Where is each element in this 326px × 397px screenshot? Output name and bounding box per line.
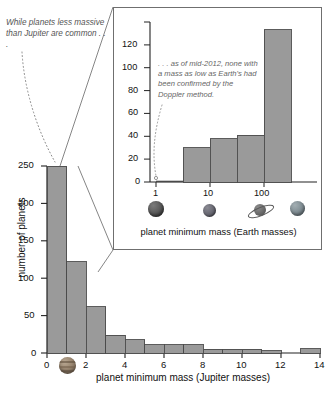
neptune-icon <box>203 204 216 217</box>
inset-ytick-60: 60 <box>128 107 138 117</box>
inset-chart <box>114 8 323 251</box>
earth-icon <box>148 201 164 217</box>
inset-ytick-40: 40 <box>128 130 138 140</box>
main-xtick-0: 0 <box>44 359 49 370</box>
inset-xtick-100: 100 <box>254 188 269 198</box>
main-x-axis-label: planet minimum mass (Jupiter masses) <box>40 372 326 383</box>
saturn-icon <box>247 201 273 219</box>
main-ytick-250: 250 <box>18 159 34 170</box>
inset-ytick-80: 80 <box>128 85 138 95</box>
inset-xtick-1: 1 <box>153 188 158 198</box>
inset-ytick-120: 120 <box>122 39 137 49</box>
figure-root: While planets less massive than Jupiter … <box>0 0 326 397</box>
uranus-icon <box>290 201 305 216</box>
main-xtick-10: 10 <box>236 359 247 370</box>
inset-ytick-100: 100 <box>122 62 137 72</box>
inset-ytick-20: 20 <box>128 153 138 163</box>
main-xtick-6: 6 <box>161 359 166 370</box>
main-y-axis-label: number of planets <box>16 173 27 303</box>
main-xtick-4: 4 <box>122 359 127 370</box>
inset-panel: . . . as of mid-2012, none with a mass a… <box>113 7 322 250</box>
inset-xtick-10: 10 <box>203 188 213 198</box>
inset-ytick-0: 0 <box>135 176 140 186</box>
main-ytick-0: 0 <box>31 347 36 358</box>
inset-x-axis-label: planet minimum mass (Earth masses) <box>114 227 323 237</box>
main-xtick-2: 2 <box>83 359 88 370</box>
main-xtick-14: 14 <box>314 359 325 370</box>
main-xtick-8: 8 <box>200 359 205 370</box>
main-ytick-50: 50 <box>24 309 35 320</box>
main-xtick-12: 12 <box>275 359 286 370</box>
